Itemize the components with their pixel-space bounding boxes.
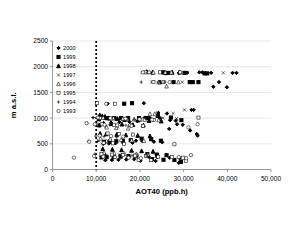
data-point <box>183 71 186 74</box>
data-point <box>172 112 175 115</box>
data-point <box>180 119 183 122</box>
legend-marker-2000 <box>57 46 60 49</box>
data-point <box>142 101 145 104</box>
data-point <box>134 139 137 142</box>
data-point <box>235 71 238 74</box>
data-point <box>157 155 160 158</box>
x-axis-title: AOT40 (ppb.h) <box>136 187 189 196</box>
data-point <box>139 80 143 84</box>
data-point <box>96 116 99 119</box>
y-axis-title: m a.s.l. <box>9 92 18 118</box>
data-point <box>153 112 157 116</box>
y-tick-label: 2000 <box>33 63 48 70</box>
data-point <box>231 71 234 74</box>
data-point <box>130 154 134 158</box>
x-tick-label: 10,000 <box>86 175 107 182</box>
x-tick-label: 40,000 <box>217 175 238 182</box>
data-point <box>162 158 165 161</box>
data-point <box>101 155 104 158</box>
legend-marker-1995 <box>57 91 60 94</box>
data-point <box>141 124 144 127</box>
data-point <box>85 122 88 125</box>
data-point <box>150 159 153 162</box>
legend-marker-1998 <box>57 64 61 68</box>
data-point <box>131 133 134 136</box>
data-point <box>108 116 111 119</box>
x-tick-label: 50,000 <box>261 175 282 182</box>
data-point <box>133 158 136 161</box>
y-tick-label: 500 <box>37 140 48 147</box>
data-point <box>102 141 105 144</box>
data-point <box>152 81 155 84</box>
data-point <box>130 148 134 152</box>
legend-label-1996: 1996 <box>63 81 75 87</box>
data-point <box>197 81 200 84</box>
legend-label-1994: 1994 <box>63 99 75 105</box>
x-tick-label: 0 <box>51 175 55 182</box>
data-point <box>98 134 101 137</box>
data-point <box>72 156 75 159</box>
data-point <box>138 117 141 120</box>
data-point <box>140 137 143 140</box>
data-point <box>165 84 169 88</box>
data-point <box>187 126 190 129</box>
data-point <box>122 135 125 138</box>
data-point <box>177 155 180 158</box>
data-point <box>139 156 142 159</box>
data-point <box>189 153 192 156</box>
data-point <box>196 123 199 126</box>
data-point <box>217 80 220 83</box>
data-point <box>169 116 172 119</box>
data-point <box>179 160 182 163</box>
legend-label-1999: 1999 <box>63 54 75 60</box>
y-tick-label: 1000 <box>33 115 48 122</box>
data-point <box>151 149 155 153</box>
legend-label-2000: 2000 <box>63 45 75 51</box>
data-point <box>156 114 159 117</box>
data-point <box>113 123 116 126</box>
data-point <box>173 143 176 146</box>
data-point <box>110 153 113 156</box>
data-point <box>222 71 225 74</box>
data-point <box>148 134 152 138</box>
data-point <box>192 108 195 111</box>
data-point <box>177 80 181 84</box>
data-point <box>115 140 118 143</box>
data-point <box>172 81 175 84</box>
data-point <box>117 132 120 135</box>
data-point <box>92 154 95 157</box>
data-point <box>185 156 188 159</box>
x-tick-label: 30,000 <box>174 175 195 182</box>
data-point <box>134 154 137 157</box>
data-point <box>197 116 200 119</box>
data-point <box>118 121 121 124</box>
data-point <box>123 142 126 145</box>
data-point <box>88 140 91 143</box>
data-point <box>181 156 184 159</box>
data-point <box>130 102 133 105</box>
data-point <box>113 155 116 158</box>
data-point <box>124 124 128 128</box>
data-point <box>168 80 171 83</box>
data-point <box>181 81 184 84</box>
data-point <box>188 81 191 84</box>
data-point <box>148 112 152 116</box>
data-point <box>183 108 186 111</box>
data-point <box>167 127 170 130</box>
data-point <box>150 118 153 121</box>
series-1999 <box>99 71 209 164</box>
y-tick-label: 0 <box>44 166 48 173</box>
data-point <box>225 86 228 89</box>
data-point <box>195 132 198 135</box>
data-point <box>111 147 115 151</box>
y-tick-label: 1500 <box>33 89 48 96</box>
data-point <box>91 116 95 120</box>
data-point <box>165 154 168 157</box>
data-point <box>113 102 116 105</box>
data-point <box>124 117 127 120</box>
data-point <box>158 71 161 74</box>
legend-marker-1993 <box>57 109 60 112</box>
data-point <box>96 102 99 105</box>
data-point <box>206 72 209 75</box>
chart-canvas: 05001000150020002500010,00020,00030,0004… <box>0 0 289 225</box>
